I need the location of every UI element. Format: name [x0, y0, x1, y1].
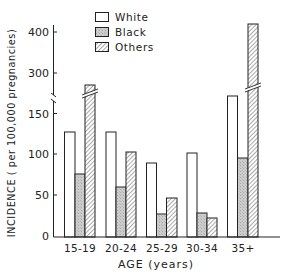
y-tick-300: 300: [28, 67, 49, 80]
legend: White Black Others: [96, 11, 154, 53]
bar-others-15-19: [85, 85, 95, 237]
bar-white-20-24: [106, 132, 116, 237]
x-label-15-19: 15-19: [64, 242, 96, 254]
bar-black-35plus: [238, 158, 249, 237]
x-tick-labels: 15-19 20-24 25-29 30-34 35+: [64, 242, 255, 254]
bar-black-20-24: [116, 187, 126, 237]
y-tick-labels: 400 300 150 100 50 0: [28, 26, 49, 243]
y-tick-400: 400: [28, 26, 49, 39]
y-axis: [51, 25, 57, 237]
legend-swatch-others: [96, 43, 109, 52]
legend-swatch-black: [96, 28, 109, 37]
legend-swatch-white: [96, 13, 109, 22]
x-label-25-29: 25-29: [146, 242, 178, 254]
bar-black-15-19: [75, 174, 85, 237]
x-axis-title: AGE (years): [118, 258, 194, 271]
y-tick-0: 0: [42, 230, 49, 243]
bar-others-20-24: [126, 152, 136, 237]
y-axis-title: INCIDENCE ( per 100,000 pregnancies): [6, 29, 17, 238]
bar-white-25-29: [147, 163, 157, 237]
bar-white-30-34: [187, 153, 197, 237]
bar-others-25-29: [167, 198, 178, 237]
bar-others-35plus: [248, 24, 258, 237]
x-label-20-24: 20-24: [105, 242, 137, 254]
bar-others-30-34: [207, 218, 217, 237]
x-label-35plus: 35+: [231, 242, 254, 254]
bar-chart: INCIDENCE ( per 100,000 pregnancies) 400…: [0, 0, 287, 279]
bar-black-30-34: [197, 213, 207, 237]
y-tick-50: 50: [35, 189, 49, 202]
bar-white-15-19: [65, 132, 76, 237]
bar-black-25-29: [157, 214, 167, 237]
y-tick-150: 150: [28, 108, 49, 121]
legend-label-black: Black: [115, 26, 147, 38]
legend-label-others: Others: [115, 41, 154, 53]
y-tick-100: 100: [28, 148, 49, 161]
x-label-30-34: 30-34: [186, 242, 218, 254]
legend-label-white: White: [115, 11, 149, 23]
bars: [65, 24, 259, 237]
bar-white-35plus: [228, 96, 238, 237]
